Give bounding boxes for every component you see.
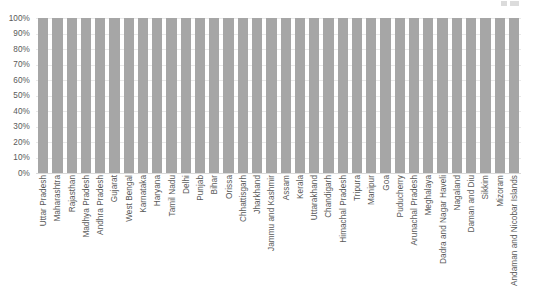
bar-slot: [179, 18, 193, 173]
bar-slot: [493, 18, 507, 173]
bar-slot: [279, 18, 293, 173]
bar-slot: [65, 18, 79, 173]
x-axis-tick-label: Dadra and Nagar Haveli: [438, 175, 447, 264]
artifact-mark: [510, 1, 519, 6]
x-axis-tick: Dadra and Nagar Haveli: [435, 175, 449, 306]
x-axis-tick: West Bengal: [122, 175, 136, 306]
x-axis-tick-label: Rajasthan: [67, 175, 76, 212]
x-axis-tick-label: Himachal Pradesh: [338, 175, 347, 243]
y-axis: 100%90%80%70%60%50%40%30%20%10%0%: [0, 11, 33, 180]
x-axis-tick-label: Tamil Nadu: [167, 175, 176, 216]
y-axis-tick-label: 0%: [0, 169, 30, 178]
x-axis-tick: Andaman and Nicobar Islands: [507, 175, 521, 306]
x-axis-tick-label: Karnataka: [138, 175, 147, 213]
x-axis-tick-label: Daman and Diu: [467, 175, 476, 233]
x-axis-tick-label: Chandigarh: [324, 175, 333, 218]
bar: [81, 18, 91, 173]
x-axis-tick-label: Andhra Pradesh: [96, 175, 105, 235]
x-axis-tick: Chhattisgarh: [236, 175, 250, 306]
y-axis-tick-label: 80%: [0, 45, 30, 54]
x-axis-tick-label: Jharkhand: [253, 175, 262, 214]
bar: [480, 18, 490, 173]
bar: [209, 18, 219, 173]
bar: [452, 18, 462, 173]
bar-slot: [207, 18, 221, 173]
bar-series: [36, 18, 521, 173]
x-axis-tick-label: Mizoram: [495, 175, 504, 207]
x-axis-tick: Maharashtra: [50, 175, 64, 306]
x-axis-tick-label: Punjab: [196, 175, 205, 201]
bar: [181, 18, 191, 173]
x-axis-tick: Madhya Pradesh: [79, 175, 93, 306]
artifact-mark: [501, 1, 507, 6]
bar-slot: [478, 18, 492, 173]
bar-slot: [293, 18, 307, 173]
bar: [152, 18, 162, 173]
x-axis-tick: Rajasthan: [65, 175, 79, 306]
x-axis-tick: Orissa: [221, 175, 235, 306]
x-axis-tick: Bihar: [207, 175, 221, 306]
bar: [138, 18, 148, 173]
x-axis-tick-label: Sikkim: [481, 175, 490, 199]
bar: [166, 18, 176, 173]
x-axis-tick: Sikkim: [478, 175, 492, 306]
bar-slot: [507, 18, 521, 173]
bar-slot: [50, 18, 64, 173]
x-axis-tick-label: Delhi: [181, 175, 190, 194]
bar-slot: [236, 18, 250, 173]
x-axis-tick: Karnataka: [136, 175, 150, 306]
x-axis-tick-label: Madhya Pradesh: [81, 175, 90, 238]
bar-slot: [364, 18, 378, 173]
x-axis-tick-label: Meghalaya: [424, 175, 433, 216]
bar-slot: [407, 18, 421, 173]
bar-slot: [321, 18, 335, 173]
x-axis-tick: Kerala: [293, 175, 307, 306]
x-axis-tick-label: Arunachal Pradesh: [410, 175, 419, 246]
bar: [38, 18, 48, 173]
x-axis-tick: Goa: [378, 175, 392, 306]
x-axis-tick-label: Gujarat: [110, 175, 119, 202]
y-axis-tick-label: 10%: [0, 153, 30, 162]
bar: [124, 18, 134, 173]
x-axis-tick: Meghalaya: [421, 175, 435, 306]
bar: [238, 18, 248, 173]
x-axis-tick-label: Andaman and Nicobar Islands: [509, 175, 518, 286]
bar: [67, 18, 77, 173]
bar-slot: [193, 18, 207, 173]
bar-slot: [350, 18, 364, 173]
y-axis-tick-label: 30%: [0, 122, 30, 131]
bar-slot: [435, 18, 449, 173]
bar-slot: [464, 18, 478, 173]
plot-area: [36, 18, 521, 173]
x-axis-tick: Puducherry: [393, 175, 407, 306]
bar: [495, 18, 505, 173]
x-axis-tick-label: Nagaland: [452, 175, 461, 210]
bar-slot: [421, 18, 435, 173]
bar: [352, 18, 362, 173]
x-axis-tick: Uttar Pradesh: [36, 175, 50, 306]
x-axis-tick: Mizoram: [493, 175, 507, 306]
bar: [437, 18, 447, 173]
bar: [266, 18, 276, 173]
bar-slot: [450, 18, 464, 173]
bar-slot: [36, 18, 50, 173]
x-axis-tick: Tripura: [350, 175, 364, 306]
x-axis-tick-label: Kerala: [295, 175, 304, 199]
bar-slot: [107, 18, 121, 173]
bar-slot: [79, 18, 93, 173]
bar: [109, 18, 119, 173]
bar-slot: [393, 18, 407, 173]
x-axis-tick-label: Manipur: [367, 175, 376, 205]
x-axis-tick: Uttarakhand: [307, 175, 321, 306]
axis-baseline: [36, 173, 521, 174]
x-axis-tick: Andhra Pradesh: [93, 175, 107, 306]
bar-slot: [378, 18, 392, 173]
bar: [423, 18, 433, 173]
x-axis-tick: Delhi: [179, 175, 193, 306]
bar-chart: 100%90%80%70%60%50%40%30%20%10%0% Uttar …: [0, 0, 537, 308]
y-axis-tick-label: 40%: [0, 107, 30, 116]
bar-slot: [122, 18, 136, 173]
bar: [409, 18, 419, 173]
x-axis-tick-label: Bihar: [210, 175, 219, 194]
x-axis-tick-label: Uttar Pradesh: [39, 175, 48, 226]
